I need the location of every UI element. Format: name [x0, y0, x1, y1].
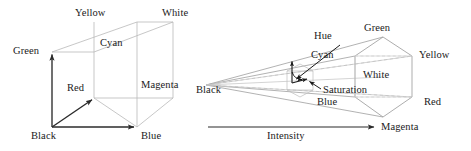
cone-label-intensity: Intensity	[267, 131, 305, 142]
cone-label-red: Red	[424, 97, 441, 108]
cone-label-green: Green	[364, 23, 390, 34]
cone-label-cyan: Cyan	[311, 50, 334, 61]
cube-label-white: White	[162, 8, 188, 19]
cube-edge-red-blue-diag	[94, 98, 137, 127]
cube-label-blue: Blue	[141, 131, 161, 142]
cube-label-cyan: Cyan	[100, 38, 123, 49]
color-models-figure: Yellow White Cyan Green Magenta Red Blac…	[0, 0, 471, 151]
cone-label-saturation: Saturation	[323, 85, 367, 96]
cone-label-yellow: Yellow	[419, 50, 449, 61]
cone-label-blue: Blue	[317, 97, 337, 108]
cone-label-magenta: Magenta	[381, 122, 418, 133]
cube-edge-magenta-blue	[137, 98, 173, 127]
cube-label-magenta: Magenta	[141, 80, 178, 91]
cone-label-hue: Hue	[314, 31, 332, 42]
cone-label-black: Black	[196, 85, 221, 96]
saturation-leader-line	[310, 82, 322, 90]
cone-edge-to-green	[206, 37, 383, 85]
cube-edge-green-yellow	[52, 22, 137, 52]
cube-label-yellow: Yellow	[75, 8, 105, 19]
cube-label-green: Green	[13, 46, 39, 57]
hsi-cone-wireframe	[206, 37, 412, 127]
cone-label-white: White	[363, 70, 389, 81]
cube-axis-to-red	[52, 100, 92, 127]
cube-label-red: Red	[67, 83, 84, 94]
cube-label-black: Black	[31, 131, 56, 142]
